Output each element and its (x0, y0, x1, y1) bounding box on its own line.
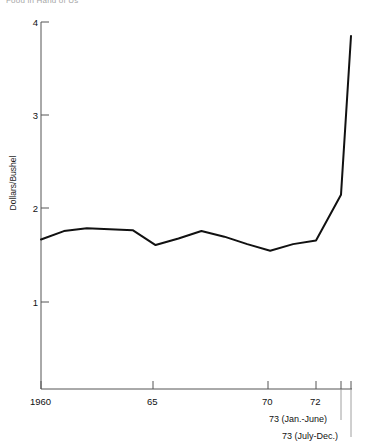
data-series-line (41, 36, 351, 251)
plot-area (0, 0, 366, 448)
chart-figure: Food in Hand of Us Dollars/Bushel 1 2 3 … (0, 0, 366, 448)
